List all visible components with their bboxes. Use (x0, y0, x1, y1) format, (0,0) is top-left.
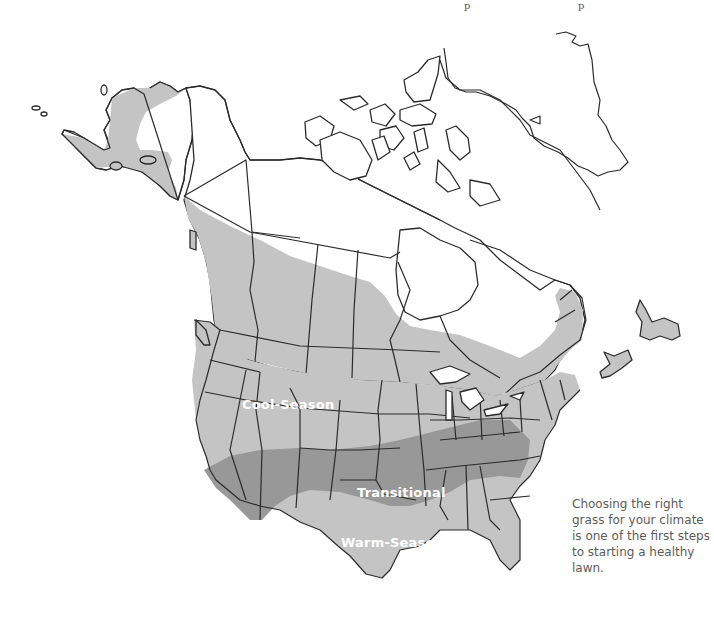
cropped-text-fragment: p (578, 0, 584, 11)
cropped-text-fragment: p (464, 0, 470, 11)
caption-text: Choosing the right grass for your climat… (572, 496, 712, 576)
zone-label-cool-season: Cool-Season (242, 397, 334, 412)
alaska (32, 82, 194, 200)
canada (184, 86, 680, 396)
zone-label-warm-season: Warm-Season (341, 535, 444, 550)
greenland (444, 32, 628, 176)
zone-label-transitional: Transitional (357, 485, 446, 500)
